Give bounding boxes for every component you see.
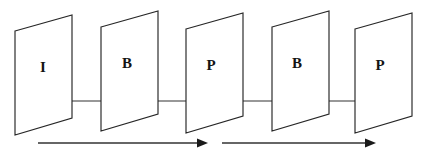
order-arrows-group [38, 139, 376, 148]
frame-dependency-diagram: I B P B P [0, 0, 431, 153]
frame-plane-2: B [101, 11, 158, 131]
frame-label-p2: P [375, 57, 384, 73]
frame-plane-3: P [186, 13, 243, 133]
frame-label-b2: B [292, 55, 302, 71]
order-arrow-head-2-icon [365, 139, 376, 148]
frame-label-i: I [40, 59, 46, 75]
diagram-canvas: I B P B P [0, 0, 431, 153]
frame-plane-4: B [272, 11, 329, 131]
order-arrow-head-1-icon [197, 139, 208, 148]
frame-label-b1: B [122, 55, 132, 71]
frame-plane-1: I [15, 15, 72, 135]
frame-label-p1: P [206, 57, 215, 73]
frame-plane-5: P [355, 13, 412, 133]
